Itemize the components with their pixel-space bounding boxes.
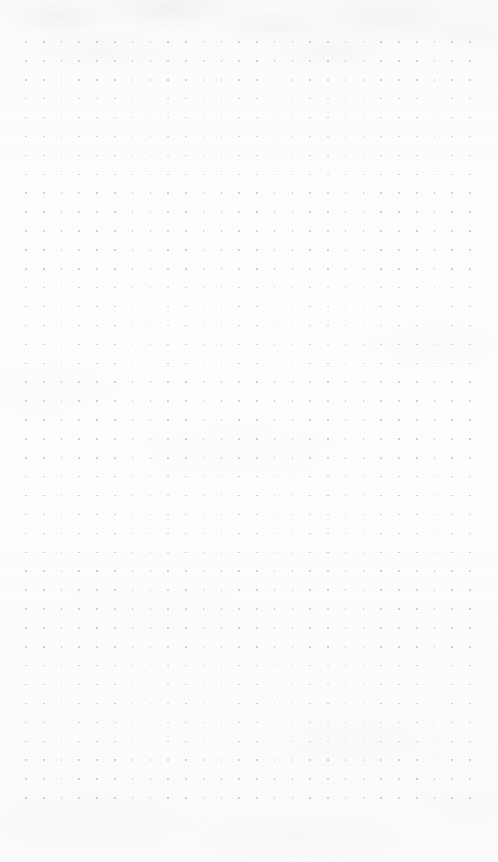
- writing-area[interactable]: [26, 42, 470, 798]
- dot-grid-paper-page: [0, 0, 498, 862]
